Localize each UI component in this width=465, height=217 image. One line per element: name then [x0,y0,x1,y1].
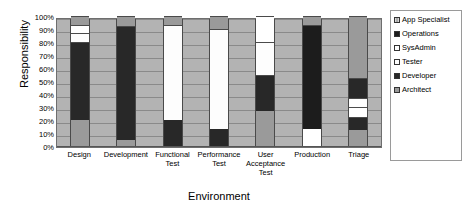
stacked-bar-chart: Responsibility 100%90%80%70%60%50%40%30%… [0,0,465,217]
stacked-bar[interactable] [70,19,90,147]
y-axis-tick: 70% [22,53,54,61]
bar-segment[interactable] [349,130,367,146]
stacked-bar[interactable] [348,19,368,147]
stacked-bar[interactable] [163,19,183,147]
x-axis-tick-labels: DesignDevelopmentFunctional TestPerforma… [56,150,382,186]
bar-slot [57,19,103,147]
bar-slot [196,19,242,147]
bar-segment[interactable] [71,33,89,42]
bar-segment[interactable] [349,16,367,78]
y-axis-tick: 10% [22,131,54,139]
x-axis-tick: Development [103,150,150,186]
bar-segment[interactable] [117,16,135,26]
x-axis-tick: Functional Test [149,150,196,186]
y-axis-tick-labels: 100%90%80%70%60%50%40%30%20%10%0% [22,14,54,148]
bar-segment[interactable] [303,25,321,129]
legend-swatch-icon [394,17,400,23]
plot-area [56,18,382,148]
bar-slot [150,19,196,147]
bar-segment[interactable] [71,120,89,146]
legend-label: Operations [402,29,439,38]
y-axis-tick: 60% [22,66,54,74]
bar-segment[interactable] [117,26,135,139]
legend-label: Tester [402,57,422,66]
bar-segment[interactable] [164,16,182,25]
y-axis-tick: 30% [22,105,54,113]
legend: App SpecialistOperationsSysAdminTesterDe… [390,10,462,161]
stacked-bar[interactable] [255,19,275,147]
x-axis-tick: Performance Test [196,150,243,186]
bar-slot [242,19,288,147]
stacked-bar[interactable] [209,19,229,147]
bar-segment[interactable] [256,75,274,111]
legend-label: Developer [402,71,436,80]
stacked-bar[interactable] [302,19,322,147]
bar-segment[interactable] [210,29,228,129]
x-axis-tick: Production [289,150,336,186]
bar-segment[interactable] [303,129,321,146]
bar-segment[interactable] [256,111,274,146]
bar-segment[interactable] [71,42,89,120]
y-axis-tick: 0% [22,144,54,152]
y-axis-tick: 50% [22,79,54,87]
y-axis-tick: 20% [22,118,54,126]
x-axis-title: Environment [56,190,382,202]
bar-segment[interactable] [349,98,367,107]
legend-item[interactable]: Tester [394,57,459,66]
legend-item[interactable]: App Specialist [394,15,459,24]
bar-segment[interactable] [71,25,89,33]
legend-label: App Specialist [402,15,450,24]
legend-swatch-icon [394,31,400,37]
y-axis-tick: 100% [22,14,54,22]
bar-slot [288,19,334,147]
legend-item[interactable]: Operations [394,29,459,38]
bar-segment[interactable] [164,120,182,146]
legend-item[interactable]: Architect [394,85,459,94]
bar-segment[interactable] [349,117,367,130]
y-axis-tick: 90% [22,27,54,35]
y-axis-tick: 80% [22,40,54,48]
bar-slot [335,19,381,147]
x-axis-tick: Design [56,150,103,186]
legend-item[interactable]: Developer [394,71,459,80]
stacked-bar[interactable] [116,19,136,147]
bar-segment[interactable] [164,25,182,120]
bar-segment[interactable] [71,16,89,25]
legend-label: Architect [402,85,431,94]
legend-swatch-icon [394,45,400,51]
bar-group [57,19,381,147]
bar-segment[interactable] [210,16,228,29]
bar-segment[interactable] [256,42,274,75]
bar-segment[interactable] [349,107,367,117]
bar-segment[interactable] [210,129,228,146]
legend-label: SysAdmin [402,43,436,52]
bar-segment[interactable] [349,78,367,98]
bar-segment[interactable] [303,16,321,25]
y-axis-tick: 40% [22,92,54,100]
legend-item[interactable]: SysAdmin [394,43,459,52]
bar-segment[interactable] [256,16,274,42]
legend-swatch-icon [394,73,400,79]
x-axis-line [57,146,381,147]
x-axis-tick: User Acceptance Test [242,150,289,186]
legend-swatch-icon [394,59,400,65]
legend-swatch-icon [394,87,400,93]
x-axis-tick: Triage [335,150,382,186]
bar-slot [103,19,149,147]
